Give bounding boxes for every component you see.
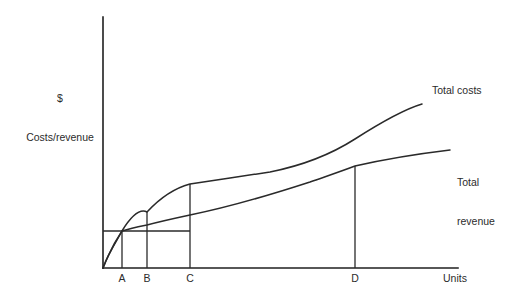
y-axis-label-text: Costs/revenue (18, 131, 102, 144)
y-axis-label-currency: $ (18, 92, 102, 105)
x-tick-label-c: C (180, 272, 200, 284)
total-revenue-label: Total revenue (457, 150, 511, 254)
x-tick-label-d: D (345, 272, 365, 284)
y-axis-label: $ Costs/revenue (18, 66, 102, 170)
total-revenue-label-line1: Total (457, 176, 511, 189)
x-tick-label-a: A (112, 272, 132, 284)
total-costs-label: Total costs (432, 84, 482, 97)
total-revenue-label-line2: revenue (457, 215, 511, 228)
x-axis-label: Units (432, 272, 478, 285)
x-tick-label-b: B (137, 272, 157, 284)
total-revenue-curve (103, 150, 450, 268)
breakeven-chart: $ Costs/revenue Units Total costs Total … (0, 0, 513, 301)
total-costs-curve (103, 104, 422, 268)
